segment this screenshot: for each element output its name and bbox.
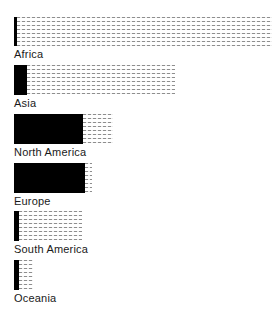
bar-label-europe: Europe [14, 195, 51, 208]
plot-area: Africa Asia North America Europe [0, 0, 272, 316]
bar-row-oceania[interactable] [14, 260, 33, 290]
bar-label-africa: Africa [14, 48, 43, 61]
bar-segment-hatched [19, 260, 33, 290]
bar-segment-solid [14, 114, 83, 144]
bar-row-asia[interactable] [14, 65, 175, 95]
bar-track [14, 163, 92, 193]
bar-row-africa[interactable] [14, 17, 272, 46]
bar-segment-hatched [85, 163, 92, 193]
bar-track [14, 114, 113, 144]
bar-row-europe[interactable] [14, 163, 92, 193]
bar-segment-solid [14, 65, 27, 95]
bar-segment-solid [14, 163, 85, 193]
bar-label-south-america: South America [14, 243, 88, 256]
bar-chart: Africa Asia North America Europe [0, 0, 272, 316]
bar-label-north-america: North America [14, 146, 86, 159]
bar-segment-hatched [27, 65, 175, 95]
bar-segment-hatched [19, 211, 82, 241]
bar-segment-hatched [17, 17, 272, 46]
bar-label-oceania: Oceania [14, 292, 56, 305]
bar-segment-hatched [83, 114, 113, 144]
bar-track [14, 211, 82, 241]
bar-track [14, 17, 272, 46]
bar-row-north-america[interactable] [14, 114, 113, 144]
bar-label-asia: Asia [14, 97, 36, 110]
bar-row-south-america[interactable] [14, 211, 82, 241]
bar-track [14, 65, 175, 95]
bar-track [14, 260, 33, 290]
